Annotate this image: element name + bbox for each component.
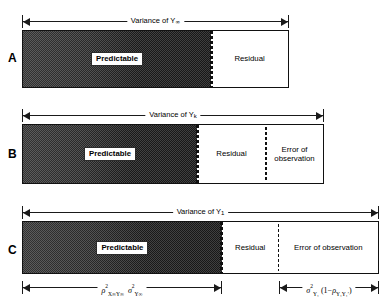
segment-label-residual-c: Residual <box>235 243 265 253</box>
dimension-cap-right <box>378 281 379 294</box>
dimension-cap-right <box>323 109 324 122</box>
segment-predictable-a: Predictable <box>23 31 211 87</box>
formula-factor-open: (1− <box>321 286 332 295</box>
segment-label-error-observation-c: Error of observation <box>294 243 362 253</box>
dimension-cap-right <box>288 15 289 28</box>
dimension-arrow-variance-a: Variance of Y∞ <box>22 14 289 28</box>
arrowhead-left-icon <box>23 284 30 292</box>
dimension-arrow-predictable-variance: ρ2X∞Y∞ σ2Y∞ <box>22 280 222 294</box>
dimension-label-b-subscript: k <box>194 113 197 119</box>
dimension-label-c-text: Variance of Y <box>177 207 221 216</box>
formula-factor-rho-subscript: Y₁Y₁′ <box>336 291 349 297</box>
formula-error-of-observation: σ2Y₁ (1−ρY₁Y₁′) <box>302 278 355 303</box>
segment-label-error-observation-b: Error of observation <box>274 145 314 164</box>
panel-b: B Variance of Yk Predictable Residual Er… <box>0 98 392 198</box>
arrowhead-right-icon <box>371 209 378 217</box>
dimension-cap-right <box>221 281 222 294</box>
dimension-arrow-variance-b: Variance of Yk <box>22 108 324 122</box>
arrowhead-left-icon <box>23 209 30 217</box>
formula-sigma-subscript: Y∞ <box>135 291 143 297</box>
arrowhead-right-icon <box>371 284 378 292</box>
arrowhead-right-icon <box>281 18 288 26</box>
dimension-label-a-text: Variance of Y <box>131 16 175 25</box>
variance-bar-b: Predictable Residual Error of observatio… <box>22 124 324 184</box>
formula-predictable-variance: ρ2X∞Y∞ σ2Y∞ <box>98 278 147 303</box>
formula-factor-close: ) <box>349 286 352 295</box>
segment-predictable-c: Predictable <box>23 222 222 273</box>
dimension-label-a-subscript: ∞ <box>175 18 180 25</box>
dimension-label-b-text: Variance of Y <box>149 110 193 119</box>
dimension-label-a: Variance of Y∞ <box>127 13 184 29</box>
segment-error-observation-b: Error of observation <box>266 125 323 183</box>
variance-bar-a: Predictable Residual <box>22 30 289 88</box>
dimension-label-b: Variance of Yk <box>145 107 200 124</box>
arrowhead-right-icon <box>214 284 221 292</box>
panel-letter-a: A <box>8 52 17 64</box>
dimension-arrow-variance-c: Variance of Y1 <box>22 205 379 219</box>
segment-label-residual-b: Residual <box>216 149 246 159</box>
segment-label-predictable-c: Predictable <box>96 241 148 255</box>
dimension-label-c-subscript: 1 <box>221 210 224 216</box>
segment-label-predictable-a: Predictable <box>91 52 143 66</box>
dimension-arrow-error-of-observation: σ2Y₁ (1−ρY₁Y₁′) <box>279 280 379 294</box>
dimension-label-c: Variance of Y1 <box>173 204 229 221</box>
segment-predictable-b: Predictable <box>23 125 197 183</box>
segment-residual-c: Residual <box>222 222 279 273</box>
formula-error-sigma-exponent: 2 <box>310 283 313 289</box>
arrowhead-left-icon <box>280 284 287 292</box>
segment-error-observation-c: Error of observation <box>279 222 378 273</box>
variance-bar-c: Predictable Residual Error of observatio… <box>22 221 379 274</box>
panel-letter-b: B <box>8 148 17 160</box>
panel-c: C Variance of Y1 Predictable Residual Er… <box>0 200 392 307</box>
dimension-cap-right <box>378 206 379 219</box>
formula-sigma-exponent: 2 <box>132 283 135 289</box>
segment-label-residual-a: Residual <box>234 54 264 64</box>
formula-rho-subscript: X∞Y∞ <box>108 291 124 297</box>
segment-label-predictable-b: Predictable <box>84 147 136 161</box>
formula-error-sigma-subscript: Y₁ <box>313 291 319 297</box>
panel-a: A Variance of Y∞ Predictable Residual <box>0 2 392 94</box>
arrowhead-left-icon <box>23 18 30 26</box>
panel-letter-c: C <box>8 244 17 256</box>
segment-residual-a: Residual <box>211 31 288 87</box>
arrowhead-right-icon <box>316 112 323 120</box>
segment-residual-b: Residual <box>197 125 266 183</box>
arrowhead-left-icon <box>23 112 30 120</box>
formula-rho-exponent: 2 <box>105 283 108 289</box>
